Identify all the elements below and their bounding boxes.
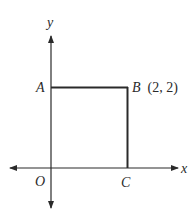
point-b-coords: (2, 2) (148, 80, 179, 96)
x-axis-label: x (180, 161, 188, 176)
coordinate-diagram: y x A B (2, 2) O C (0, 0, 192, 214)
point-b-label-group: B (2, 2) (132, 78, 178, 96)
origin-label: O (35, 174, 45, 189)
point-c-label: C (121, 175, 131, 190)
point-b-label: B (132, 80, 141, 95)
y-axis-label: y (45, 15, 54, 30)
point-a-label: A (35, 80, 45, 95)
